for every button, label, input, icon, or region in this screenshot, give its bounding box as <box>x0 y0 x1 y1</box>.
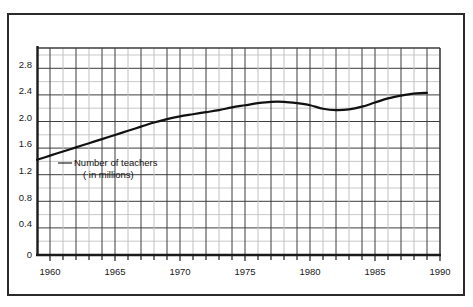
x-axis-tick-labels: 1960 1965 1970 1975 1980 1985 1990 <box>39 266 450 277</box>
series-annotation: Number of teachers ( in millions) <box>74 157 158 180</box>
x-tick-label: 1980 <box>299 266 320 277</box>
y-tick-label: 2.4 <box>19 85 32 96</box>
x-tick-label: 1975 <box>234 266 255 277</box>
vertical-gridlines <box>50 48 427 255</box>
x-tick-label: 1970 <box>169 266 190 277</box>
y-tick-label: 2.8 <box>19 59 32 70</box>
x-tick-label: 1965 <box>104 266 125 277</box>
y-axis-tick-labels: 2.8 2.4 2.0 1.6 1.2 0.8 0.4 0 <box>19 59 32 260</box>
x-tick-label: 1990 <box>429 266 450 277</box>
y-tick-label: 0.8 <box>19 192 32 203</box>
y-tick-label: 2.0 <box>19 112 32 123</box>
chart-figure: 2.8 2.4 2.0 1.6 1.2 0.8 0.4 0 1960 1965 … <box>0 0 473 307</box>
y-tick-label: 0 <box>27 249 32 260</box>
x-tick-label: 1960 <box>39 266 60 277</box>
x-tick-label: 1985 <box>364 266 385 277</box>
annotation-line-1: Number of teachers <box>74 157 158 168</box>
line-chart-plot: 2.8 2.4 2.0 1.6 1.2 0.8 0.4 0 1960 1965 … <box>0 0 473 307</box>
y-tick-label: 1.2 <box>19 165 32 176</box>
annotation-line-2: ( in millions) <box>83 169 134 180</box>
y-tick-label: 1.6 <box>19 138 32 149</box>
plot-frame <box>37 48 440 255</box>
horizontal-major-gridlines <box>37 68 440 228</box>
y-tick-label: 0.4 <box>19 218 32 229</box>
